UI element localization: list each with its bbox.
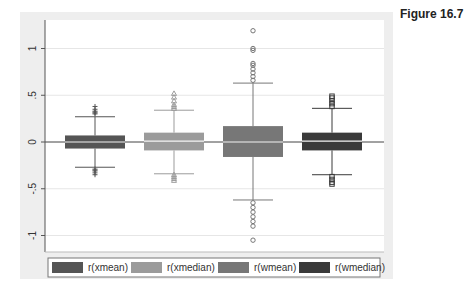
y-tick-label: 1 <box>27 45 38 51</box>
legend-item: r(wmean) <box>218 262 296 273</box>
legend: r(xmean)r(xmedian)r(wmean)r(wmedian) <box>48 258 385 277</box>
legend-item: r(wmedian) <box>299 262 385 273</box>
legend-swatch <box>52 262 83 273</box>
y-tick-label: -1 <box>27 231 38 240</box>
legend-swatch <box>299 262 330 273</box>
y-tick-label: -.5 <box>27 182 38 194</box>
y-tick-label: .5 <box>27 91 38 100</box>
legend-item: r(xmedian) <box>131 262 215 273</box>
legend-label: r(wmedian) <box>335 262 385 273</box>
legend-swatch <box>131 262 162 273</box>
legend-label: r(wmean) <box>254 262 296 273</box>
legend-label: r(xmean) <box>88 262 128 273</box>
legend-label: r(xmedian) <box>167 262 215 273</box>
y-tick-label: 0 <box>27 139 38 145</box>
legend-item: r(xmean) <box>52 262 128 273</box>
legend-swatch <box>218 262 249 273</box>
box-plot-chart: -1-.50.51 r(xmean)r(xmedian)r(wmean)r(wm… <box>0 0 469 298</box>
